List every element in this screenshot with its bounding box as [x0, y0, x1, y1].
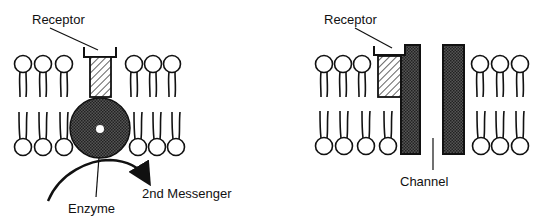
channel [401, 45, 464, 154]
enzyme-leader-line [96, 157, 99, 197]
left-panel-enzyme-linked: Receptor Enzyme 2nd Messenger [15, 12, 233, 216]
channel-label: Channel [400, 174, 449, 189]
second-messenger-label: 2nd Messenger [142, 186, 232, 201]
receptor-leader-line-left [50, 28, 98, 50]
enzyme [70, 98, 130, 158]
receptor-leader-line-right [355, 28, 392, 48]
diagram-canvas: Receptor Enzyme 2nd Messenger [0, 0, 538, 217]
receptor-label-left: Receptor [32, 12, 85, 27]
receptor-label-right: Receptor [324, 12, 377, 27]
lipid-bilayer-right [316, 56, 529, 155]
enzyme-label: Enzyme [68, 201, 115, 216]
receptor-left [84, 47, 116, 97]
right-panel-channel-linked: Receptor Channel [316, 12, 529, 189]
